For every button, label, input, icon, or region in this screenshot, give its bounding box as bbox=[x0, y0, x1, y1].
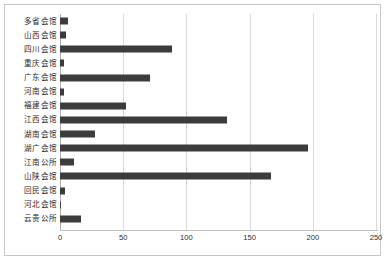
bar-row: 多省会馆 bbox=[5, 14, 380, 28]
bar bbox=[60, 46, 172, 53]
bar bbox=[60, 159, 74, 166]
bar bbox=[60, 131, 95, 138]
bar-row: 云贵公所 bbox=[5, 212, 380, 226]
bar-row: 河北会馆 bbox=[5, 198, 380, 212]
bar bbox=[60, 116, 227, 123]
category-label: 湖广会馆 bbox=[5, 144, 57, 153]
x-tick-label: 50 bbox=[119, 233, 127, 242]
bar bbox=[60, 18, 68, 25]
bar bbox=[60, 88, 64, 95]
bar-row: 山陕会馆 bbox=[5, 169, 380, 183]
category-label: 江南公所 bbox=[5, 158, 57, 167]
bar-track bbox=[60, 14, 378, 28]
category-label: 多省会馆 bbox=[5, 17, 57, 26]
bar-track bbox=[60, 113, 378, 127]
x-tick-label: 100 bbox=[180, 233, 193, 242]
bar bbox=[60, 60, 64, 67]
bar-track bbox=[60, 198, 378, 212]
category-label: 江西会馆 bbox=[5, 115, 57, 124]
bar-track bbox=[60, 155, 378, 169]
bar-rows: 多省会馆山西会馆四川会馆重庆会馆广东会馆河南会馆福建会馆江西会馆湖南会馆湖广会馆… bbox=[5, 14, 380, 231]
x-tick-label: 0 bbox=[58, 233, 62, 242]
bar bbox=[60, 187, 65, 194]
category-label: 云贵公所 bbox=[5, 214, 57, 223]
bar-row: 山西会馆 bbox=[5, 28, 380, 42]
bar-row: 四川会馆 bbox=[5, 42, 380, 56]
bar-track bbox=[60, 212, 378, 226]
bar-track bbox=[60, 169, 378, 183]
category-label: 四川会馆 bbox=[5, 45, 57, 54]
x-tick-label: 150 bbox=[243, 233, 256, 242]
bar-track bbox=[60, 127, 378, 141]
bar-track bbox=[60, 28, 378, 42]
bar-row: 广东会馆 bbox=[5, 71, 380, 85]
category-label: 回民会馆 bbox=[5, 186, 57, 195]
bar-row: 湖广会馆 bbox=[5, 141, 380, 155]
x-tick-label: 250 bbox=[370, 233, 383, 242]
bar bbox=[60, 215, 81, 222]
bar-track bbox=[60, 71, 378, 85]
category-label: 河南会馆 bbox=[5, 87, 57, 96]
bar-track bbox=[60, 42, 378, 56]
plot-area: 多省会馆山西会馆四川会馆重庆会馆广东会馆河南会馆福建会馆江西会馆湖南会馆湖广会馆… bbox=[5, 5, 380, 255]
bar-row: 江西会馆 bbox=[5, 113, 380, 127]
bar bbox=[60, 32, 66, 39]
bar-track bbox=[60, 85, 378, 99]
bar-row: 福建会馆 bbox=[5, 99, 380, 113]
bar bbox=[60, 74, 150, 81]
category-label: 湖南会馆 bbox=[5, 130, 57, 139]
bar-track bbox=[60, 184, 378, 198]
category-label: 河北会馆 bbox=[5, 200, 57, 209]
bar bbox=[60, 145, 308, 152]
x-axis-line bbox=[60, 230, 378, 231]
bar bbox=[60, 173, 271, 180]
chart-container: 多省会馆山西会馆四川会馆重庆会馆广东会馆河南会馆福建会馆江西会馆湖南会馆湖广会馆… bbox=[4, 4, 381, 256]
category-label: 广东会馆 bbox=[5, 73, 57, 82]
x-axis-tick-labels: 050100150200250 bbox=[5, 233, 380, 247]
category-label: 山陕会馆 bbox=[5, 172, 57, 181]
bar-row: 江南公所 bbox=[5, 155, 380, 169]
bar-row: 重庆会馆 bbox=[5, 56, 380, 70]
bar-track bbox=[60, 141, 378, 155]
bar-track bbox=[60, 56, 378, 70]
bar-track bbox=[60, 99, 378, 113]
bar bbox=[60, 102, 126, 109]
x-tick-label: 200 bbox=[306, 233, 319, 242]
bar-row: 湖南会馆 bbox=[5, 127, 380, 141]
bar bbox=[60, 201, 61, 208]
category-label: 福建会馆 bbox=[5, 101, 57, 110]
bar-row: 河南会馆 bbox=[5, 85, 380, 99]
category-label: 重庆会馆 bbox=[5, 59, 57, 68]
category-label: 山西会馆 bbox=[5, 31, 57, 40]
bar-row: 回民会馆 bbox=[5, 184, 380, 198]
